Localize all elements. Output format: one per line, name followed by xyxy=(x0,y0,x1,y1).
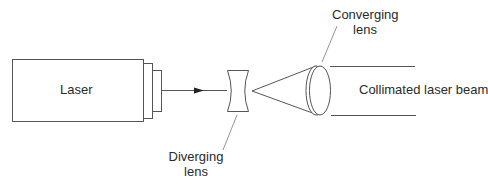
laser-step-1 xyxy=(144,64,153,119)
laser-aperture xyxy=(153,71,162,112)
collimated-beam-label: Collimated laser beam xyxy=(359,82,488,97)
diverging-lens-label-line2: lens xyxy=(166,164,226,179)
converging-lens-label-line2: lens xyxy=(332,22,398,37)
converging-lens-label: Converging lens xyxy=(332,7,398,37)
input-beam xyxy=(161,88,227,94)
diverging-lens-leader-line xyxy=(223,115,237,150)
converging-lens-label-line1: Converging xyxy=(332,7,398,22)
laser-label: Laser xyxy=(60,82,93,97)
beam-arrow-icon xyxy=(194,88,204,94)
diverging-lens-label-line1: Diverging xyxy=(166,149,226,164)
converging-lens-shape xyxy=(306,66,331,115)
diverging-lens-label: Diverging lens xyxy=(166,149,226,179)
diverging-lens-shape xyxy=(228,71,249,112)
